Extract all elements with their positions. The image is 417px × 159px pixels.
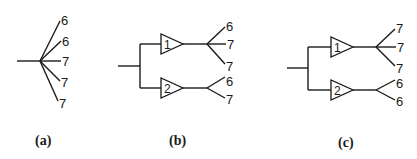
panel-b: 1 2 6 7 7 6 7 (b) (118, 19, 234, 149)
leaf-edge (40, 61, 60, 81)
leaf-label: 6 (226, 19, 233, 34)
panel-caption: (a) (35, 133, 52, 149)
leaf-edge (40, 41, 61, 61)
leaf-edge (376, 29, 395, 47)
leaf-label: 6 (226, 74, 233, 89)
leaf-label: 7 (397, 40, 404, 55)
leaf-edge (376, 90, 395, 100)
leaf-edge (376, 47, 395, 66)
leaf-label: 7 (227, 37, 234, 52)
subtree-label: 1 (164, 38, 171, 52)
leaf-label: 6 (61, 13, 68, 28)
subtree-label: 2 (164, 82, 171, 96)
panel-caption: (c) (338, 135, 354, 151)
leaf-label: 6 (396, 94, 403, 109)
leaf-label: 7 (226, 92, 233, 107)
leaf-label: 7 (396, 21, 403, 36)
panel-a: 6 6 7 7 7 (a) (17, 13, 69, 149)
leaf-edge (207, 27, 225, 44)
subtree-label: 2 (334, 84, 341, 98)
tree-diagram-figure: 6 6 7 7 7 (a) 1 2 6 7 7 6 7 (b) (0, 0, 417, 159)
leaf-edge (376, 80, 395, 90)
panel-caption: (b) (169, 133, 186, 149)
panel-c: 1 2 7 7 7 6 6 (c) (287, 21, 404, 151)
leaf-edge (207, 44, 225, 64)
leaf-edge (40, 21, 60, 61)
leaf-edge (40, 61, 58, 101)
leaf-label: 6 (62, 34, 69, 49)
leaf-label: 7 (62, 54, 69, 69)
leaf-label: 7 (396, 61, 403, 76)
leaf-label: 6 (396, 76, 403, 91)
leaf-label: 7 (226, 59, 233, 74)
leaf-label: 7 (59, 96, 66, 111)
leaf-edge (207, 88, 225, 98)
subtree-label: 1 (334, 41, 341, 55)
leaf-label: 7 (61, 75, 68, 90)
leaf-edge (207, 77, 225, 88)
